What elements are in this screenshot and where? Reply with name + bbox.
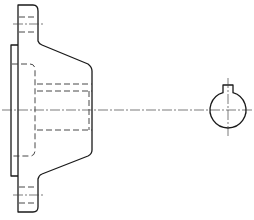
flange-outline <box>18 5 92 212</box>
bore-hidden <box>37 84 92 130</box>
technical-drawing <box>0 0 254 220</box>
keyed-shaft-end-view <box>210 78 246 138</box>
